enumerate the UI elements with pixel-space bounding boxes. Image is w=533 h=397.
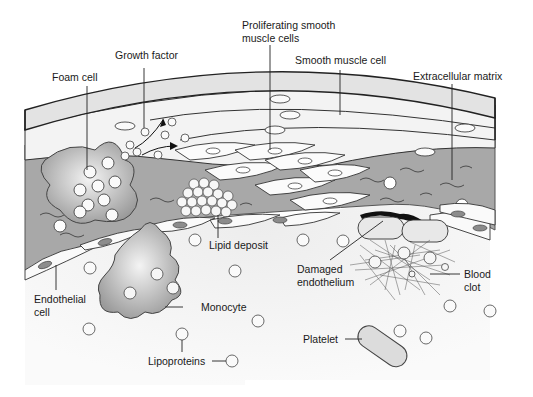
label-damaged-2: endothelium: [297, 276, 354, 289]
label-foam-cell: Foam cell: [52, 71, 98, 84]
label-monocyte: Monocyte: [201, 301, 247, 314]
label-lipoproteins: Lipoproteins: [148, 355, 205, 368]
label-blood-clot-2: clot: [464, 281, 480, 294]
label-platelet: Platelet: [303, 333, 338, 346]
label-blood-clot-1: Blood: [464, 268, 491, 281]
atherosclerosis-diagram: [0, 0, 533, 397]
label-damaged-1: Damaged: [297, 263, 343, 276]
label-proliferating-2: muscle cells: [242, 32, 299, 45]
label-endothelial-2: cell: [34, 306, 50, 319]
label-extracellular-matrix: Extracellular matrix: [413, 70, 502, 83]
label-lipid-deposit: Lipid deposit: [209, 239, 268, 252]
label-smooth-muscle-cell: Smooth muscle cell: [295, 54, 386, 67]
label-growth-factor: Growth factor: [115, 49, 178, 62]
label-endothelial-1: Endothelial: [34, 293, 86, 306]
label-proliferating-1: Proliferating smooth: [242, 19, 335, 32]
